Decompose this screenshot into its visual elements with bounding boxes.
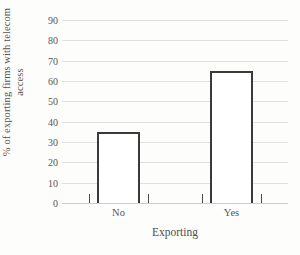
x-axis-tick-marks bbox=[62, 194, 288, 203]
x-axis-line bbox=[62, 203, 288, 204]
y-axis-tick-label: 40 bbox=[32, 116, 58, 127]
y-axis-tick-label: 20 bbox=[32, 157, 58, 168]
y-axis-tick-label: 30 bbox=[32, 137, 58, 148]
x-axis-tick-mark bbox=[148, 194, 149, 203]
gridline bbox=[62, 61, 288, 62]
x-axis-tick-mark bbox=[202, 194, 203, 203]
y-axis-tick-label: 60 bbox=[32, 76, 58, 87]
gridline bbox=[62, 81, 288, 82]
x-axis-tick-mark bbox=[89, 194, 90, 203]
x-axis-tick-mark bbox=[261, 194, 262, 203]
bar-yes bbox=[210, 71, 253, 203]
gridline bbox=[62, 122, 288, 123]
x-axis-tick-label-no: No bbox=[89, 207, 149, 218]
y-axis-title-line-1: % of exporting firms with telecom bbox=[0, 0, 13, 182]
gridline bbox=[62, 183, 288, 184]
y-axis-tick-label: 90 bbox=[32, 15, 58, 26]
y-axis-tick-label: 70 bbox=[32, 55, 58, 66]
plot-area bbox=[62, 20, 288, 203]
gridline bbox=[62, 20, 288, 21]
x-axis-tick-label-yes: Yes bbox=[202, 207, 262, 218]
gridline bbox=[62, 142, 288, 143]
bar-chart-figure: % of exporting firms with telecom access… bbox=[0, 0, 300, 255]
x-axis-title: Exporting bbox=[62, 226, 288, 238]
y-axis-tick-label: 80 bbox=[32, 35, 58, 46]
bar-no bbox=[97, 132, 140, 203]
y-axis-title-line-2: access bbox=[13, 0, 26, 182]
y-axis-tick-label: 0 bbox=[32, 198, 58, 209]
y-axis-tick-label: 10 bbox=[32, 177, 58, 188]
gridline bbox=[62, 101, 288, 102]
y-axis-tick-labels: 0102030405060708090 bbox=[30, 0, 58, 255]
gridline bbox=[62, 162, 288, 163]
gridline bbox=[62, 40, 288, 41]
y-axis-tick-label: 50 bbox=[32, 96, 58, 107]
